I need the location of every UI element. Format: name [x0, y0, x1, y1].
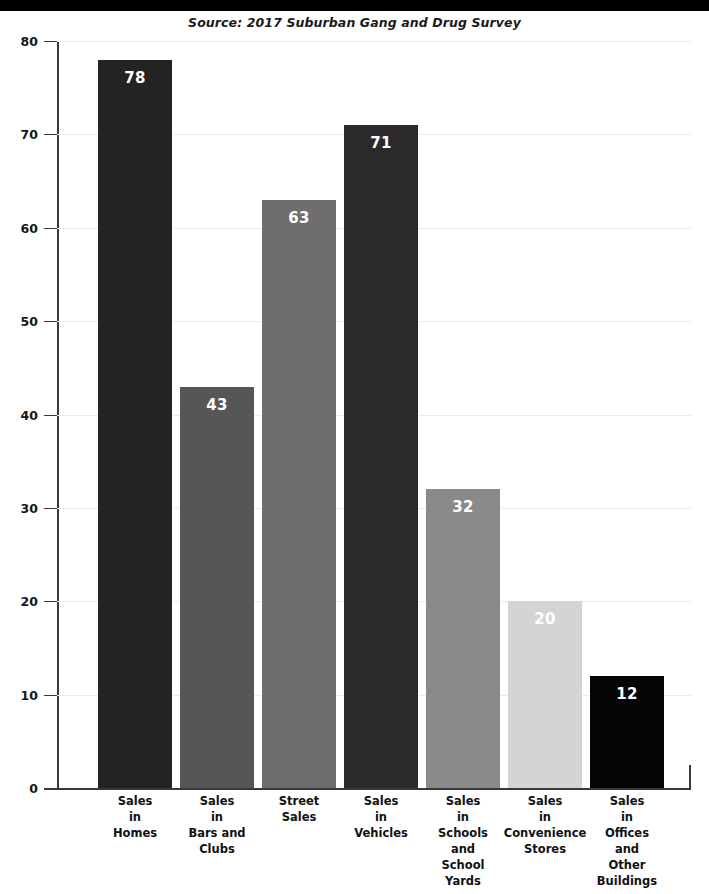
bar-value-label-4: 71 [344, 134, 418, 152]
category-label-7: SalesinOfficesandOtherBuildings [574, 793, 680, 889]
y-tick-mark-60 [44, 228, 57, 229]
category-label-line: Bars and [164, 825, 270, 841]
category-label-line: Yards [410, 873, 516, 889]
y-tick-label-70: 70 [0, 134, 38, 135]
bar-chart-plot-area: 01020304050607080 78436371322012 Salesin… [0, 0, 709, 894]
y-tick-mark-0 [44, 788, 57, 789]
category-label-line: and [574, 841, 680, 857]
y-tick-mark-20 [44, 601, 57, 602]
category-label-line: Sales [574, 793, 680, 809]
chart-page: Source: 2017 Suburban Gang and Drug Surv… [0, 0, 709, 894]
x-axis-line [44, 788, 691, 790]
category-label-line: Clubs [164, 841, 270, 857]
bar-value-label-5: 32 [426, 498, 500, 516]
y-tick-label-40: 40 [0, 415, 38, 416]
bar-1[interactable]: 78 [98, 60, 172, 788]
bar-value-label-2: 43 [180, 396, 254, 414]
y-tick-label-60: 60 [0, 228, 38, 229]
y-tick-mark-70 [44, 134, 57, 135]
category-label-line: Offices [574, 825, 680, 841]
category-label-line: in [574, 809, 680, 825]
y-tick-mark-50 [44, 321, 57, 322]
category-label-line: Buildings [574, 873, 680, 889]
bar-2[interactable]: 43 [180, 387, 254, 789]
right-axis-cap [689, 765, 691, 790]
y-tick-mark-30 [44, 508, 57, 509]
y-tick-label-50: 50 [0, 321, 38, 322]
bar-5[interactable]: 32 [426, 489, 500, 788]
y-tick-label-0: 0 [0, 788, 38, 789]
bar-4[interactable]: 71 [344, 125, 418, 788]
gridline-80 [57, 41, 691, 42]
category-label-line: School [410, 857, 516, 873]
bar-value-label-1: 78 [98, 69, 172, 87]
y-tick-mark-40 [44, 415, 57, 416]
y-tick-mark-80 [44, 41, 57, 42]
y-tick-label-30: 30 [0, 508, 38, 509]
y-tick-label-10: 10 [0, 695, 38, 696]
bar-6[interactable]: 20 [508, 601, 582, 788]
bar-value-label-7: 12 [590, 685, 664, 703]
y-tick-label-80: 80 [0, 41, 38, 42]
bar-7[interactable]: 12 [590, 676, 664, 788]
bar-value-label-3: 63 [262, 209, 336, 227]
category-label-line: Other [574, 857, 680, 873]
y-tick-mark-10 [44, 695, 57, 696]
bar-3[interactable]: 63 [262, 200, 336, 788]
bar-value-label-6: 20 [508, 610, 582, 628]
y-tick-label-20: 20 [0, 601, 38, 602]
